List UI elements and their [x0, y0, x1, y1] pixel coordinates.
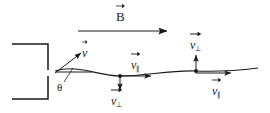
vector-symbol-B: B [116, 8, 125, 24]
velocity-label: v [82, 44, 87, 60]
vector-symbol-v-perp: v⊥ [190, 36, 201, 52]
v-parallel-right-label: v∥ [212, 82, 221, 98]
v-perp-left-label: v⊥ [111, 92, 122, 108]
magnetic-field-label: B [116, 8, 125, 24]
vector-symbol-v-parallel: v∥ [131, 56, 140, 72]
vector-symbol-v-perp: v⊥ [111, 92, 122, 108]
angle-theta-label: θ [57, 82, 62, 93]
v-parallel-left-label: v∥ [131, 56, 140, 72]
vector-symbol-v: v [82, 44, 87, 60]
figure-canvas: B v θ v∥ [0, 0, 270, 113]
aperture-lower-plate [12, 76, 48, 99]
aperture-upper-plate [12, 44, 48, 70]
velocity-vector-arrow [55, 53, 81, 73]
vector-symbol-v-parallel: v∥ [212, 82, 221, 98]
v-perp-right-label: v⊥ [190, 36, 201, 52]
theta-leader-line [64, 68, 73, 82]
